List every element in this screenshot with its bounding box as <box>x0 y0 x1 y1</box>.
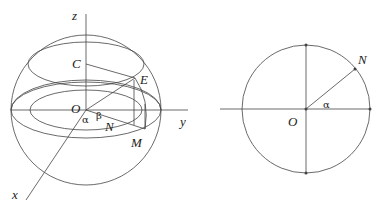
center-point <box>305 108 308 111</box>
circle-figure: N O α <box>220 44 372 175</box>
segment-CE <box>86 64 135 78</box>
label-y: y <box>178 114 186 129</box>
label-C: C <box>72 56 81 71</box>
x-axis <box>26 110 86 200</box>
point-N <box>354 68 357 71</box>
right-point <box>369 108 372 111</box>
label-O-right: O <box>288 114 298 129</box>
top-point <box>305 44 308 47</box>
label-z: z <box>71 8 77 23</box>
label-beta: β <box>96 110 102 121</box>
diagram-canvas: z y x C E O N M α β N O α <box>0 0 376 205</box>
radius-ON <box>306 69 355 109</box>
label-N-right: N <box>357 52 368 67</box>
bottom-point <box>305 172 308 175</box>
label-E: E <box>139 72 148 87</box>
segment-OE <box>86 78 135 110</box>
sphere-figure: z y x C E O N M α β <box>11 8 188 202</box>
label-M: M <box>130 135 143 150</box>
label-N: N <box>104 119 115 134</box>
label-O: O <box>71 101 81 116</box>
label-alpha-right: α <box>323 99 330 110</box>
label-x: x <box>11 187 18 202</box>
label-alpha: α <box>82 114 89 125</box>
